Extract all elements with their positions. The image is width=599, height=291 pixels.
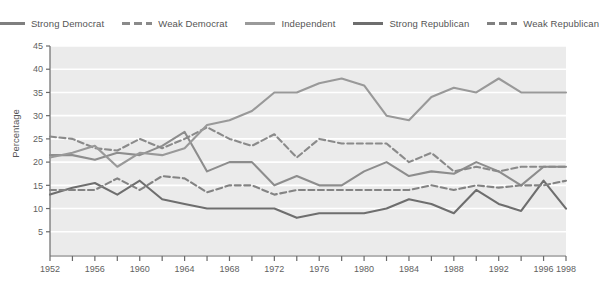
line-dashed-icon <box>487 22 517 25</box>
legend-item-label: Independent <box>281 18 335 29</box>
x-axis-tick-label: 1980 <box>354 264 374 274</box>
legend-item-label: Strong Democrat <box>31 18 104 29</box>
y-axis-tick-label: 30 <box>33 111 43 121</box>
x-axis-tick-label: 1976 <box>309 264 329 274</box>
legend-item[interactable]: Independent <box>245 18 335 29</box>
x-axis-tick-label: 1992 <box>489 264 509 274</box>
legend-item-label: Strong Republican <box>389 18 469 29</box>
chart-legend: Strong DemocratWeak DemocratIndependentS… <box>0 14 594 32</box>
plot-background-rect <box>50 46 566 255</box>
line-solid-icon <box>0 22 25 25</box>
line-solid-icon <box>353 22 383 25</box>
line-dashed-icon <box>122 22 152 25</box>
y-axis-tick-label: 25 <box>33 134 43 144</box>
y-axis-tick-label: 20 <box>33 157 43 167</box>
x-axis-tick-label: 1960 <box>130 264 150 274</box>
y-axis-tick-label: 5 <box>38 227 43 237</box>
y-axis-tick-label: 15 <box>33 181 43 191</box>
y-axis-tick-label: 10 <box>33 204 43 214</box>
line-chart-svg: 51015202530354045 1952195619601964196819… <box>0 36 594 291</box>
y-axis-tick-label: 45 <box>33 41 43 51</box>
x-axis-tick-label: 1988 <box>444 264 464 274</box>
legend-item-label: Weak Democrat <box>158 18 227 29</box>
x-axis-tick-label: 1952 <box>40 264 60 274</box>
legend-item-label: Weak Republican <box>523 18 599 29</box>
legend-item[interactable]: Strong Democrat <box>0 18 104 29</box>
plot-background <box>50 46 566 255</box>
x-axis-tick-label: 1972 <box>264 264 284 274</box>
x-axis-tick-label: 1968 <box>219 264 239 274</box>
line-solid-icon <box>245 22 275 25</box>
y-axis-tick-label: 40 <box>33 64 43 74</box>
x-axis-tick-label: 1996 <box>534 264 554 274</box>
x-axis: 1952195619601964196819721976198019841988… <box>40 256 576 274</box>
legend-item[interactable]: Weak Democrat <box>122 18 227 29</box>
legend-item[interactable]: Weak Republican <box>487 18 599 29</box>
legend-item[interactable]: Strong Republican <box>353 18 469 29</box>
x-axis-tick-label: 1964 <box>175 264 195 274</box>
x-axis-tick-label: 1956 <box>85 264 105 274</box>
plot-area-wrapper: Percentage 51015202530354045 19521956196… <box>0 36 594 291</box>
x-axis-tick-label: 1998 <box>556 264 576 274</box>
x-axis-tick-label: 1984 <box>399 264 419 274</box>
y-axis-tick-label: 35 <box>33 88 43 98</box>
y-axis: 51015202530354045 <box>33 41 50 256</box>
